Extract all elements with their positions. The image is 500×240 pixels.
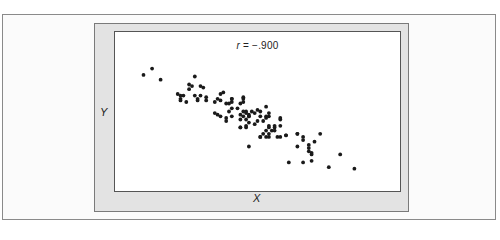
data-point — [236, 106, 240, 110]
data-point — [264, 105, 268, 109]
data-point — [258, 135, 262, 139]
data-point — [301, 161, 305, 165]
data-point — [241, 114, 245, 118]
data-point — [264, 135, 268, 139]
data-point — [318, 132, 322, 136]
data-point — [327, 165, 331, 169]
y-axis-label: Y — [100, 106, 107, 118]
data-point — [227, 110, 231, 114]
data-point — [239, 126, 243, 130]
data-point — [193, 75, 197, 79]
data-point — [307, 149, 311, 153]
data-point — [244, 110, 248, 114]
data-point — [267, 114, 271, 118]
data-point — [219, 99, 223, 103]
data-point — [219, 114, 223, 118]
data-point — [230, 106, 234, 110]
data-point — [310, 159, 314, 163]
data-point — [241, 95, 245, 99]
data-point — [261, 119, 265, 123]
data-point — [301, 135, 305, 139]
data-point — [287, 161, 291, 165]
data-point — [247, 121, 251, 125]
data-point — [256, 119, 260, 123]
data-point — [199, 94, 203, 98]
data-point — [267, 124, 271, 128]
data-point — [239, 118, 243, 122]
data-point — [184, 100, 188, 104]
data-point — [353, 167, 357, 171]
data-point — [201, 86, 205, 90]
data-point — [159, 78, 163, 82]
data-point — [273, 129, 277, 133]
correlation-annotation: r = −.900 — [115, 40, 400, 51]
data-point — [150, 67, 154, 71]
data-point — [187, 87, 191, 91]
data-point — [258, 114, 262, 118]
data-point — [253, 111, 257, 115]
data-point — [313, 140, 317, 144]
data-point — [230, 97, 234, 101]
data-point — [264, 129, 268, 133]
data-point — [179, 99, 183, 103]
data-point — [230, 114, 234, 118]
data-point — [204, 99, 208, 103]
scatter-plot-area: r = −.900 — [114, 31, 401, 192]
data-point — [142, 73, 146, 77]
data-point — [190, 84, 194, 88]
data-point — [253, 122, 257, 126]
data-point — [296, 132, 300, 136]
data-point — [196, 99, 200, 103]
scatter-points — [115, 32, 400, 191]
data-point — [213, 100, 217, 104]
data-point — [241, 100, 245, 104]
data-point — [310, 153, 314, 157]
data-point — [278, 124, 282, 128]
data-point — [278, 118, 282, 122]
data-point — [284, 133, 288, 137]
data-point — [247, 145, 251, 149]
data-point — [267, 132, 271, 136]
data-point — [244, 118, 248, 122]
data-point — [296, 145, 300, 149]
data-point — [221, 91, 225, 95]
data-point — [278, 135, 282, 139]
r-value: = −.900 — [240, 40, 278, 51]
data-point — [256, 108, 260, 112]
data-point — [224, 116, 228, 120]
data-point — [247, 114, 251, 118]
data-point — [244, 124, 248, 128]
x-axis-label: X — [253, 192, 260, 204]
data-point — [338, 153, 342, 157]
data-point — [193, 94, 197, 98]
data-point — [261, 132, 265, 136]
data-point — [179, 94, 183, 98]
